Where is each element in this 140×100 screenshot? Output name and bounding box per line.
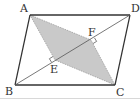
label-a: A [19,2,29,15]
side-ab [15,15,30,85]
diagonal-bd [15,15,130,85]
label-d: D [131,2,140,15]
label-f: F [88,26,96,39]
side-dc [115,15,130,85]
right-angle-marker-e [49,57,53,63]
label-e: E [50,63,58,76]
label-c: C [116,86,124,99]
geometry-diagram: A D B C F E [0,0,140,100]
label-b: B [5,85,13,98]
